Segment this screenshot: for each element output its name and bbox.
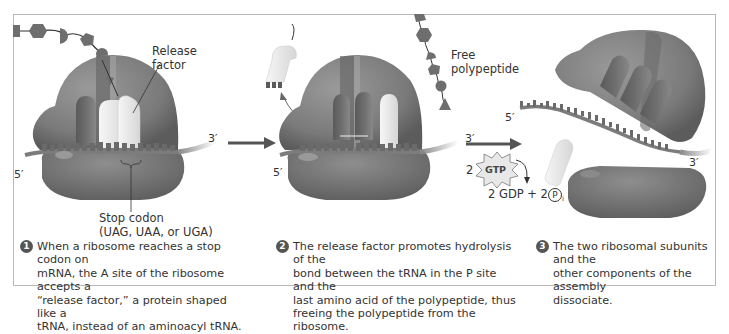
mrna-5-prime-label-2: 5′ — [273, 166, 283, 180]
gtp-coefficient: 2 — [466, 163, 473, 177]
step-arrow-1-to-2 — [228, 137, 276, 149]
step-3-caption: 3 The two ribosomal subunits and the oth… — [536, 240, 716, 307]
mrna-3-prime-label-3: 3′ — [689, 156, 699, 170]
amino-acid-icon — [13, 25, 20, 37]
step-2-caption: 2 The release factor promotes hydrolysis… — [276, 240, 516, 334]
gdp-products-text: 2 GDP + 2 — [488, 187, 548, 201]
phosphate-icon: P — [548, 188, 562, 202]
mrna-5-prime-label-3: 5′ — [505, 111, 515, 125]
step-3-number-badge: 3 — [536, 240, 549, 253]
free-polypeptide-label: Free polypeptide — [451, 48, 519, 76]
phosphate-subscript: i — [562, 195, 564, 203]
stop-codon-label: Stop codon — [99, 211, 164, 225]
step-2-text: The release factor promotes hydrolysis o… — [276, 240, 516, 334]
gdp-products-label: 2 GDP + 2Pi — [488, 187, 564, 206]
step-1-caption: 1 When a ribosome reaches a stop codon o… — [20, 240, 245, 334]
stop-codon-list-label: (UAG, UAA, or UGA) — [99, 225, 213, 239]
release-factor-label: Release factor — [152, 44, 197, 72]
gtp-label: GTP — [485, 163, 506, 177]
mrna-3-prime-label: 3′ — [208, 132, 218, 146]
step-1-number-badge: 1 — [20, 240, 33, 253]
panel-2-illustration — [266, 14, 458, 200]
mrna-5-prime-label: 5′ — [14, 168, 24, 182]
step-1-text: When a ribosome reaches a stop codon on … — [20, 240, 245, 334]
mrna-3-prime-label-2: 3′ — [465, 132, 475, 146]
step-3-text: The two ribosomal subunits and the other… — [536, 240, 716, 307]
step-2-number-badge: 2 — [276, 240, 289, 253]
